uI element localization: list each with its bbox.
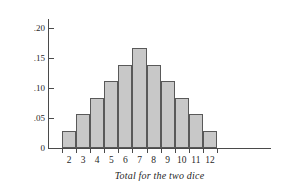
bar [62, 131, 76, 148]
x-axis-line [48, 148, 271, 149]
bar-column [90, 19, 104, 148]
bar [132, 48, 146, 148]
bar [189, 114, 203, 148]
bar [104, 81, 118, 148]
x-axis-tick [175, 149, 176, 153]
y-axis-tick-label: .05 [0, 114, 45, 123]
y-axis-tick-label: .20 [0, 24, 45, 33]
x-axis-tick [118, 149, 119, 153]
bar-column [76, 19, 90, 148]
x-axis-tick [76, 149, 77, 153]
bar [175, 98, 189, 148]
bar-column [203, 19, 217, 148]
x-axis-tick [203, 149, 204, 153]
x-axis-tick [217, 149, 218, 153]
bar [203, 131, 217, 148]
y-axis-tick [49, 118, 54, 119]
y-axis-tick-label: .10 [0, 84, 45, 93]
y-axis-tick [49, 28, 54, 29]
y-axis-tick-label: .15 [0, 54, 45, 63]
histogram-figure: Probability 0.05.10.15.20 23456789101112… [0, 0, 289, 193]
x-axis-tick [132, 149, 133, 153]
x-axis-tick [147, 149, 148, 153]
bar [90, 98, 104, 148]
x-axis-tick [90, 149, 91, 153]
bar [76, 114, 90, 148]
plot-area [62, 19, 217, 148]
x-axis-tick [104, 149, 105, 153]
y-axis-line [48, 19, 49, 149]
x-axis-tick [189, 149, 190, 153]
x-axis-tick [161, 149, 162, 153]
y-axis-tick [49, 148, 54, 149]
bar-column [132, 19, 146, 148]
bar-column [62, 19, 76, 148]
x-axis-tick-label: 12 [200, 155, 220, 165]
bar [161, 81, 175, 148]
bar-column [104, 19, 118, 148]
y-axis-tick-label: 0 [0, 144, 45, 153]
x-axis-tick [62, 149, 63, 153]
bar [118, 65, 132, 148]
y-axis-tick [49, 88, 54, 89]
y-axis-tick [49, 58, 54, 59]
bar [147, 65, 161, 148]
bar-column [118, 19, 132, 148]
bar-column [175, 19, 189, 148]
bar-column [189, 19, 203, 148]
bar-column [147, 19, 161, 148]
bar-column [161, 19, 175, 148]
x-axis-title: Total for the two dice [48, 170, 271, 181]
